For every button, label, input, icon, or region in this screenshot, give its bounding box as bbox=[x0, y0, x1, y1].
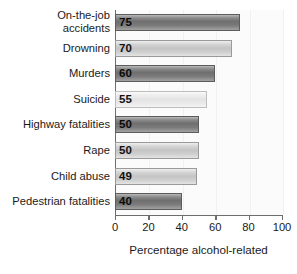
bar-value-label: 60 bbox=[119, 65, 132, 82]
bar-value-label: 75 bbox=[119, 14, 132, 31]
category-label: Drowning bbox=[0, 42, 110, 55]
x-tick-mark bbox=[148, 215, 149, 220]
x-tick-mark bbox=[115, 215, 116, 220]
category-label: Highway fatalities bbox=[0, 118, 110, 131]
category-label-line: On-the-job bbox=[0, 9, 110, 22]
category-label: Rape bbox=[0, 144, 110, 157]
bar-value-label: 50 bbox=[119, 142, 132, 159]
x-tick-mark bbox=[249, 215, 250, 220]
x-tick-mark bbox=[282, 215, 283, 220]
category-label-line: accidents bbox=[0, 22, 110, 35]
bar-chart-figure: 7570605550504940 On-the-jobaccidentsDrow… bbox=[0, 0, 297, 274]
category-label: Murders bbox=[0, 67, 110, 80]
category-label: Pedestrian fatalities bbox=[0, 195, 110, 208]
x-axis-title: Percentage alcohol-related bbox=[115, 243, 282, 256]
bar-value-label: 55 bbox=[119, 91, 132, 108]
bar bbox=[115, 40, 232, 57]
category-label: Child abuse bbox=[0, 170, 110, 183]
category-label: On-the-jobaccidents bbox=[0, 9, 110, 34]
x-tick-label: 100 bbox=[262, 221, 297, 233]
x-tick-mark bbox=[215, 215, 216, 220]
bar-value-label: 50 bbox=[119, 116, 132, 133]
bar bbox=[115, 14, 240, 31]
bar-value-label: 49 bbox=[119, 168, 132, 185]
bar-value-label: 70 bbox=[119, 40, 132, 57]
x-tick-mark bbox=[182, 215, 183, 220]
bar-value-label: 40 bbox=[119, 193, 132, 210]
category-label: Suicide bbox=[0, 93, 110, 106]
